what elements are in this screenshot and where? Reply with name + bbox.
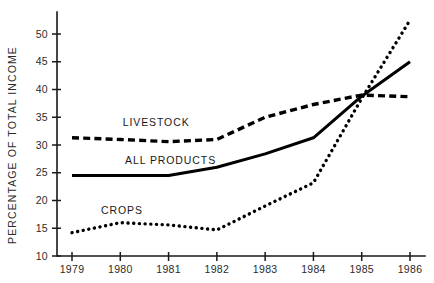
x-tick-label: 1982 <box>205 263 230 275</box>
y-axis-title-group: PERCENTAGE OF TOTAL INCOME <box>6 46 18 244</box>
x-tick-label: 1986 <box>398 263 423 275</box>
y-tick-label: 35 <box>36 111 48 123</box>
axis-frame <box>57 12 425 256</box>
x-tick-label: 1979 <box>60 263 85 275</box>
y-tick-label: 50 <box>36 28 48 40</box>
y-tick-label: 45 <box>36 55 48 67</box>
income-percentage-line-chart: PERCENTAGE OF TOTAL INCOME 1015202530354… <box>0 0 434 283</box>
x-tick-label: 1985 <box>349 263 374 275</box>
x-tick-label: 1984 <box>301 263 326 275</box>
series-inline-labels: LIVESTOCKALL PRODUCTSCROPS <box>101 116 216 216</box>
x-tick-label: 1981 <box>156 263 181 275</box>
y-tick-label: 10 <box>36 250 48 262</box>
series-label-all-products: ALL PRODUCTS <box>125 154 216 166</box>
y-axis-title: PERCENTAGE OF TOTAL INCOME <box>6 46 18 244</box>
chart-container: PERCENTAGE OF TOTAL INCOME 1015202530354… <box>0 0 434 283</box>
y-tick-label: 20 <box>36 194 48 206</box>
y-tick-label: 15 <box>36 222 48 234</box>
x-tick-label: 1980 <box>108 263 133 275</box>
y-tick-label: 25 <box>36 166 48 178</box>
y-tick-label: 30 <box>36 139 48 151</box>
x-tick-label: 1983 <box>253 263 278 275</box>
series-label-crops: CROPS <box>101 204 143 216</box>
axis-lines <box>57 12 425 256</box>
y-tick-label: 40 <box>36 83 48 95</box>
series-label-livestock: LIVESTOCK <box>123 116 190 128</box>
